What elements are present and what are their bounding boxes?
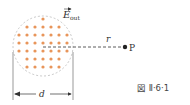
- charge-dot: [49, 57, 52, 60]
- charge-dot: [65, 33, 68, 36]
- charge-dot: [33, 41, 36, 44]
- point-p-label: P: [129, 43, 135, 53]
- charge-dot: [17, 49, 20, 52]
- charge-dot: [49, 33, 52, 36]
- charge-dot: [41, 41, 44, 44]
- charge-dot: [57, 25, 60, 28]
- charge-dot: [25, 49, 28, 52]
- charge-dot: [33, 65, 36, 68]
- arrowhead-left-icon: [14, 92, 20, 97]
- field-e-subscript: out: [70, 14, 80, 21]
- charge-dot: [49, 41, 52, 44]
- charge-dot: [57, 65, 60, 68]
- charge-dot: [33, 25, 36, 28]
- charge-dot: [33, 57, 36, 60]
- point-p-dot: [123, 45, 127, 49]
- charge-dot: [25, 33, 28, 36]
- charge-dot: [65, 49, 68, 52]
- charge-dot: [33, 33, 36, 36]
- charge-dot: [41, 65, 44, 68]
- charge-dot: [25, 25, 28, 28]
- charge-dot: [57, 49, 60, 52]
- charge-dot: [49, 25, 52, 28]
- charge-dot: [25, 41, 28, 44]
- charge-dot: [17, 33, 20, 36]
- charge-dot: [25, 57, 28, 60]
- charge-dot: [33, 49, 36, 52]
- charged-sphere-diagram: P r E out d 図 Ⅱ·6·1: [0, 0, 190, 105]
- charge-dot: [17, 41, 20, 44]
- diameter-d-label: d: [39, 89, 45, 99]
- charge-dots: [17, 17, 68, 68]
- charge-dot: [49, 49, 52, 52]
- charge-dot: [57, 33, 60, 36]
- charge-dot: [57, 41, 60, 44]
- charge-dot: [41, 25, 44, 28]
- charge-dot: [25, 65, 28, 68]
- figure-caption: 図 Ⅱ·6·1: [137, 83, 169, 93]
- charge-dot: [57, 57, 60, 60]
- charge-dot: [49, 65, 52, 68]
- distance-r-label: r: [106, 34, 111, 44]
- charge-dot: [41, 49, 44, 52]
- field-e-out-label: E out: [62, 9, 80, 21]
- charge-dot: [65, 41, 68, 44]
- charge-dot: [41, 57, 44, 60]
- charge-dot: [41, 17, 44, 20]
- charge-dot: [41, 33, 44, 36]
